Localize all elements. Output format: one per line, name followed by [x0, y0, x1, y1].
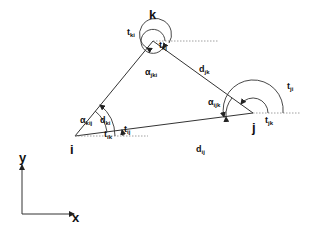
arc-tij: [122, 130, 123, 136]
x-axis-label: x: [72, 211, 79, 224]
direction-label-tjk: tjk: [265, 116, 273, 126]
angle-label-alpha-ijk: αijk: [208, 98, 220, 108]
y-axis-label: y: [19, 151, 26, 164]
arc-tjk: [241, 98, 268, 113]
edge-label-dij: dij: [196, 145, 205, 155]
direction-label-tkj: tkj: [159, 41, 167, 51]
angle-label-alpha-jki: αjki: [145, 68, 157, 78]
edge-label-djk: djk: [199, 65, 210, 75]
direction-label-tik: tik: [104, 130, 112, 140]
vertex-i-label: i: [70, 143, 74, 156]
vertex-k-label: k: [149, 8, 156, 21]
diagram-canvas: [0, 0, 310, 239]
vertex-j-label: j: [252, 121, 256, 134]
direction-label-tki: tki: [127, 28, 135, 38]
direction-label-tij: tij: [124, 125, 130, 135]
edge-kj: [153, 41, 253, 113]
angle-label-alpha-kij: αkij: [80, 116, 92, 126]
arc-alpha-ijk: [226, 98, 232, 117]
edge-label-dki: dki: [100, 116, 111, 126]
direction-label-tji: tji: [287, 82, 293, 92]
